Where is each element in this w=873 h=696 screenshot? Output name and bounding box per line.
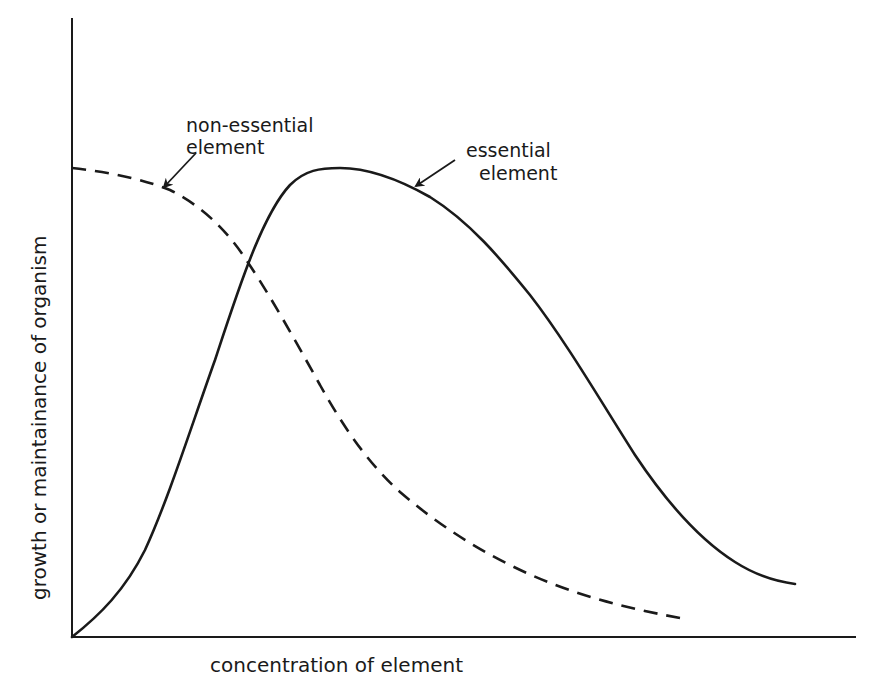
non-essential-label-line1: non-essential (186, 114, 313, 136)
essential-arrow-icon (416, 160, 455, 186)
non-essential-arrow-icon (164, 153, 196, 187)
essential-element-curve (72, 168, 795, 637)
essential-label-line1: essential (466, 139, 551, 161)
non-essential-label-line2: element (186, 136, 264, 158)
dose-response-chart: non-essential element essential element … (0, 0, 873, 696)
x-axis-label: concentration of element (210, 653, 463, 677)
non-essential-element-curve (72, 168, 680, 618)
essential-label-line2: element (479, 162, 557, 184)
y-axis-label: growth or maintainance of organism (27, 236, 51, 600)
